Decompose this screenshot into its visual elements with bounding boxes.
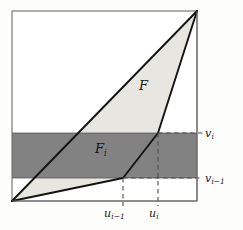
- axis-tick-ui-sub: i: [156, 212, 158, 221]
- region-label-Fi-base: F: [95, 141, 104, 156]
- axis-tick-uim1-sub: i−1: [111, 212, 124, 221]
- axis-tick-vi-sub: i: [211, 132, 213, 141]
- region-label-F: F: [139, 78, 148, 93]
- axis-tick-label-vim1: vi−1: [205, 172, 225, 186]
- region-label-F-text: F: [139, 78, 148, 93]
- axis-tick-vim1-sub: i−1: [211, 177, 224, 186]
- figure-canvas: [0, 0, 243, 230]
- region-label-Fi: Fi: [95, 141, 107, 158]
- axis-tick-label-vi: vi: [205, 127, 214, 141]
- figure-container: vi vi−1 ui−1 ui F Fi: [0, 0, 243, 230]
- region-label-Fi-sub: i: [104, 148, 107, 158]
- axis-tick-label-ui: ui: [149, 207, 159, 221]
- axis-tick-label-uim1: ui−1: [104, 207, 125, 221]
